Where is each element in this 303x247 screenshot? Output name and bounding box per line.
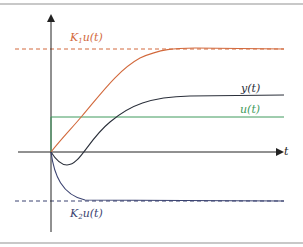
u-curve (51, 117, 284, 152)
k1-label: K1u(t) (69, 31, 103, 45)
x-axis-label: t (284, 145, 289, 158)
y-label: y(t) (240, 82, 260, 95)
k1-curve (51, 48, 284, 152)
u-label: u(t) (240, 103, 260, 116)
k2-curve (51, 152, 284, 201)
step-response-diagram: t K1u(t) y(t) u(t) K2u(t) (0, 0, 303, 247)
k2-label: K2u(t) (69, 207, 103, 221)
